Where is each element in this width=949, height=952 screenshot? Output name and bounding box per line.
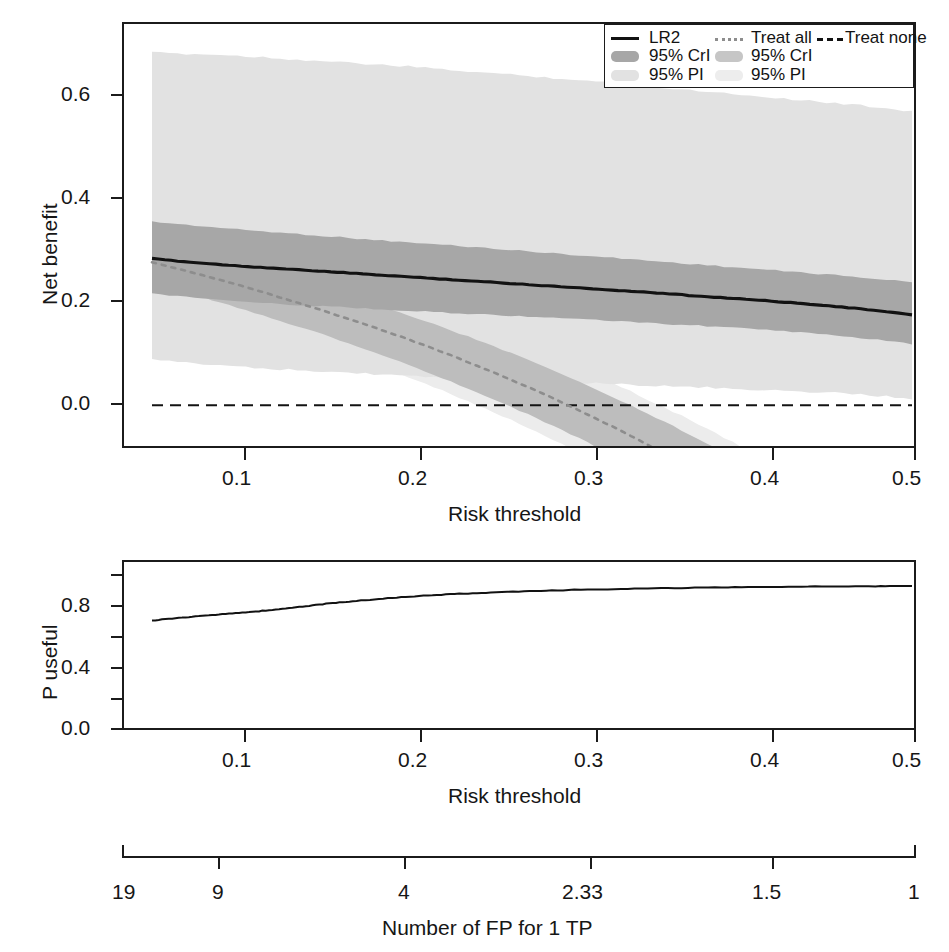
p-xtick-mark-0.3	[596, 730, 598, 742]
panel1-x-axis-title: Risk threshold	[448, 502, 581, 526]
decision-curve-figure: 0.6 0.4 0.2 0.0 Net benefit 0.1 0.2 0.3 …	[0, 0, 949, 952]
fp-axis-title: Number of FP for 1 TP	[382, 916, 592, 940]
fp-label-2.33: 2.33	[562, 880, 603, 904]
series-p-useful	[152, 586, 912, 621]
p-ytick-label-0.4: 0.4	[61, 655, 90, 679]
fp-label-9: 9	[212, 880, 224, 904]
p-ytick-mark-0.6	[111, 636, 122, 638]
legend-label-treat-none: Treat none	[845, 28, 927, 48]
legend-crl-swatch-icon	[611, 51, 639, 62]
fp-per-tp-axis	[122, 856, 916, 857]
p-xtick-label-0.3: 0.3	[574, 748, 603, 772]
xtick-label-0.1: 0.1	[222, 466, 251, 490]
ytick-label-0.0: 0.0	[61, 391, 90, 415]
fp-tick-2.33	[590, 856, 592, 869]
legend-pi-swatch-2-icon	[715, 70, 743, 81]
legend-box: LR2 95% CrI 95% PI Treat all 95% CrI 95%…	[604, 24, 914, 88]
panel2-x-axis-title: Risk threshold	[448, 784, 581, 808]
ytick-mark-0.6	[111, 94, 122, 96]
fp-tick-1.5	[772, 856, 774, 869]
ytick-mark-0.0	[111, 403, 122, 405]
legend-label-pi-1: 95% PI	[649, 65, 704, 85]
legend-treat-none-line-icon	[817, 38, 843, 41]
p-xtick-label-0.5: 0.5	[892, 748, 921, 772]
legend-label-crl-1: 95% CrI	[649, 46, 710, 66]
xtick-mark-0.4	[772, 448, 774, 460]
legend-label-lr2: LR2	[649, 28, 680, 48]
fp-axis-right-cap	[914, 845, 916, 858]
fp-label-1.5: 1.5	[752, 880, 781, 904]
ytick-mark-0.4	[111, 197, 122, 199]
xtick-mark-0.5	[914, 448, 916, 460]
p-ytick-mark-0.8	[111, 605, 122, 607]
fp-tick-4	[404, 856, 406, 869]
p-xtick-mark-0.4	[772, 730, 774, 742]
p-useful-svg	[124, 562, 914, 728]
panel2-y-axis-title: P useful	[38, 625, 62, 701]
p-useful-plot-area	[122, 560, 916, 730]
ytick-mark-0.2	[111, 300, 122, 302]
xtick-mark-0.1	[244, 448, 246, 460]
p-ytick-mark-0.0	[111, 728, 122, 730]
ytick-label-0.4: 0.4	[61, 185, 90, 209]
p-ytick-mark-0.4	[111, 667, 122, 669]
p-ytick-mark-1.0	[111, 574, 122, 576]
legend-label-crl-2: 95% CrI	[751, 46, 812, 66]
ytick-label-0.2: 0.2	[61, 288, 90, 312]
xtick-label-0.3: 0.3	[574, 466, 603, 490]
fp-label-4: 4	[398, 880, 410, 904]
panel1-y-axis-title: Net benefit	[38, 203, 62, 305]
fp-label-1: 1	[908, 880, 920, 904]
p-xtick-mark-0.5	[914, 730, 916, 742]
legend-lr2-line-icon	[611, 37, 639, 40]
fp-label-19: 19	[112, 880, 135, 904]
fp-axis-left-cap	[122, 845, 124, 858]
legend-pi-swatch-icon	[611, 70, 639, 81]
xtick-mark-0.2	[420, 448, 422, 460]
xtick-mark-0.3	[596, 448, 598, 460]
legend-crl-swatch-2-icon	[715, 51, 743, 62]
p-xtick-mark-0.2	[420, 730, 422, 742]
p-xtick-label-0.1: 0.1	[222, 748, 251, 772]
p-xtick-mark-0.1	[244, 730, 246, 742]
xtick-label-0.5: 0.5	[892, 466, 921, 490]
legend-label-treat-all: Treat all	[751, 28, 812, 48]
xtick-label-0.2: 0.2	[398, 466, 427, 490]
fp-axis-line	[122, 856, 916, 858]
p-ytick-label-0.0: 0.0	[61, 716, 90, 740]
fp-tick-9	[218, 856, 220, 869]
band-lr2-95-pi	[152, 52, 912, 400]
ytick-label-0.6: 0.6	[61, 82, 90, 106]
xtick-label-0.4: 0.4	[750, 466, 779, 490]
p-ytick-mark-0.2	[111, 698, 122, 700]
p-xtick-label-0.2: 0.2	[398, 748, 427, 772]
p-ytick-label-0.8: 0.8	[61, 593, 90, 617]
legend-label-pi-2: 95% PI	[751, 65, 806, 85]
legend-treat-all-line-icon	[715, 38, 743, 41]
p-xtick-label-0.4: 0.4	[750, 748, 779, 772]
